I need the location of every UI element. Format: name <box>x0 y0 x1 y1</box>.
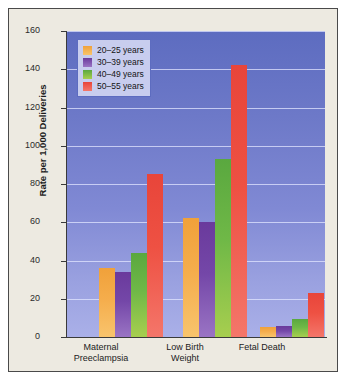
gridline <box>67 108 325 109</box>
bar <box>215 159 231 337</box>
legend-swatch-icon <box>83 82 92 91</box>
y-axis-tick-label: 60 <box>30 217 40 226</box>
bar <box>260 327 276 337</box>
y-axis-tick-label: 160 <box>25 26 40 35</box>
chart-screenshot: 020406080100120140160 Rate per 1,000 Del… <box>0 0 346 380</box>
legend-label: 30–39 years <box>97 57 144 67</box>
bar <box>231 65 247 337</box>
bar <box>147 174 163 337</box>
bar <box>292 319 308 337</box>
y-axis-tick <box>61 299 66 300</box>
y-axis-tick <box>61 108 66 109</box>
bar <box>276 326 292 337</box>
y-axis-tick-label: 140 <box>25 64 40 73</box>
bar <box>99 268 115 337</box>
legend-label: 50–55 years <box>97 81 144 91</box>
x-axis-label-line: Weight <box>135 353 235 364</box>
legend-label: 40–49 years <box>97 69 144 79</box>
y-axis-tick <box>61 222 66 223</box>
x-axis-label-line: Fetal Death <box>212 342 312 353</box>
legend-item: 20–25 years <box>83 44 144 56</box>
bar <box>308 293 324 337</box>
bar <box>199 222 215 337</box>
y-axis-tick-label: 40 <box>30 256 40 265</box>
legend-item: 50–55 years <box>83 80 144 92</box>
gridline <box>67 146 325 147</box>
legend-swatch-icon <box>83 46 92 55</box>
figure-frame: 020406080100120140160 Rate per 1,000 Del… <box>8 8 338 372</box>
y-axis-tick-label: 0 <box>35 332 40 341</box>
y-axis-tick <box>61 146 66 147</box>
bar <box>115 272 131 337</box>
gridline <box>67 184 325 185</box>
x-axis-line <box>61 337 327 338</box>
y-axis-title: Rate per 1,000 Deliveries <box>37 81 48 201</box>
bar <box>131 253 147 337</box>
y-axis-tick <box>61 184 66 185</box>
legend-item: 40–49 years <box>83 68 144 80</box>
legend-item: 30–39 years <box>83 56 144 68</box>
legend: 20–25 years 30–39 years 40–49 years 50–5… <box>77 39 151 97</box>
gridline <box>67 31 325 32</box>
y-axis-tick-label: 20 <box>30 294 40 303</box>
y-axis-tick <box>61 337 66 338</box>
y-axis-tick <box>61 261 66 262</box>
plot-area: 20–25 years 30–39 years 40–49 years 50–5… <box>67 31 325 337</box>
y-axis-tick <box>61 69 66 70</box>
y-axis-tick <box>61 31 66 32</box>
legend-label: 20–25 years <box>97 45 144 55</box>
x-axis-label: Fetal Death <box>212 342 312 353</box>
bar <box>183 218 199 337</box>
legend-swatch-icon <box>83 58 92 67</box>
legend-swatch-icon <box>83 70 92 79</box>
